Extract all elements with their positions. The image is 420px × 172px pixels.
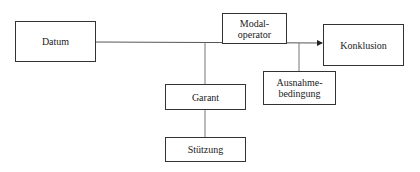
ausnahmebedingung-box: Ausnahme- bedingung	[263, 71, 336, 105]
modal-operator-box: Modal- operator	[222, 13, 287, 44]
modal-operator-label: Modal- operator	[238, 18, 271, 40]
datum-label: Datum	[42, 36, 69, 47]
konklusion-label: Konklusion	[340, 40, 387, 51]
toulmin-diagram: Datum Modal- operator Konklusion Ausnahm…	[0, 0, 420, 172]
ausnahmebedingung-label: Ausnahme- bedingung	[276, 77, 322, 99]
garant-label: Garant	[192, 92, 219, 103]
stuetzung-label: Stützung	[188, 144, 224, 155]
stuetzung-box: Stützung	[165, 137, 246, 162]
garant-box: Garant	[165, 84, 246, 110]
datum-box: Datum	[15, 21, 96, 62]
main-arrow-datum-to-konklusion	[95, 42, 322, 43]
konklusion-box: Konklusion	[323, 24, 404, 66]
